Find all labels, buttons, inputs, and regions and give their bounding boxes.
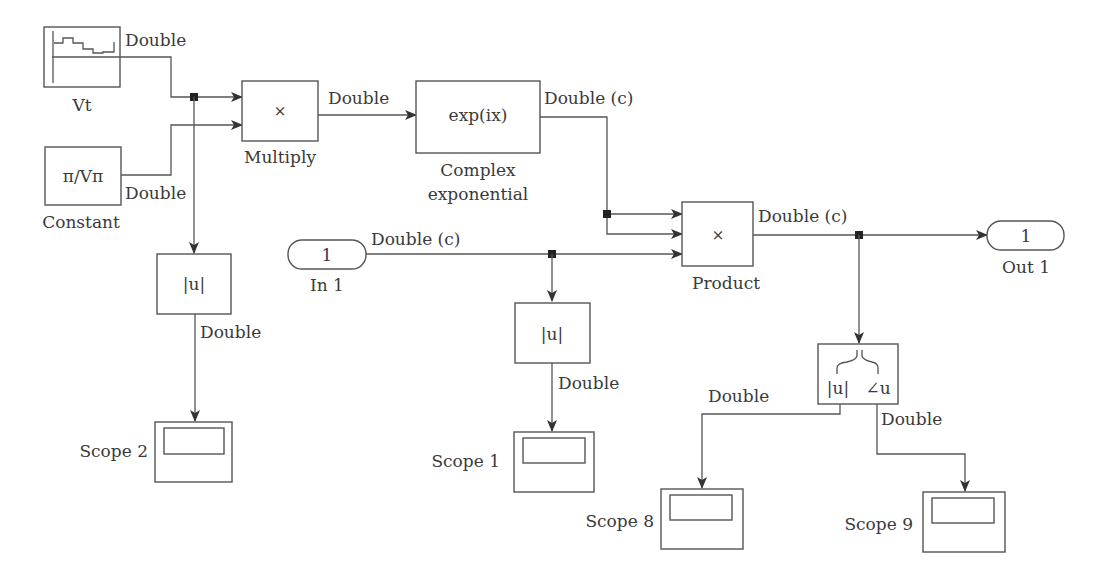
- abs-mid-expr: |u|: [541, 324, 563, 344]
- constant-block[interactable]: π/Vπ: [45, 147, 121, 205]
- product-label: Product: [692, 273, 760, 293]
- wire-exp-to-product-2: [607, 214, 682, 234]
- out1-port-number: 1: [1021, 226, 1032, 246]
- product-signal-label: Double (c): [758, 206, 847, 226]
- scope1-block[interactable]: [514, 432, 594, 492]
- abs-left-block[interactable]: |u|: [157, 254, 231, 314]
- complex-exp-expr: exp(ix): [449, 105, 508, 125]
- out1-port[interactable]: 1: [987, 221, 1064, 250]
- exp-signal-label: Double (c): [544, 88, 633, 108]
- complex-exp-block[interactable]: exp(ix): [416, 81, 540, 153]
- scope-screen-icon: [164, 428, 224, 454]
- wire-exp-to-product-1: [540, 117, 682, 214]
- scope1-label: Scope 1: [431, 451, 500, 471]
- abs-mid-signal-label: Double: [558, 373, 619, 393]
- product-symbol: ×: [712, 226, 725, 244]
- product-block[interactable]: ×: [682, 202, 753, 266]
- block-diagram: Vt Double π/Vπ Constant Double × Multipl…: [0, 0, 1113, 576]
- scope9-block[interactable]: [923, 492, 1005, 552]
- out1-label: Out 1: [1002, 257, 1050, 277]
- scope8-block[interactable]: [661, 489, 743, 549]
- constant-value: π/Vπ: [63, 166, 103, 186]
- constant-signal-label: Double: [125, 183, 186, 203]
- constant-label: Constant: [42, 212, 120, 232]
- vt-label: Vt: [71, 95, 91, 115]
- in1-signal-label: Double (c): [371, 229, 460, 249]
- scope-screen-icon: [670, 495, 732, 520]
- multiply-symbol: ×: [274, 102, 287, 120]
- complex-to-mag-angle-block[interactable]: |u| ∠u: [818, 344, 898, 404]
- multiply-signal-label: Double: [328, 88, 389, 108]
- complex-exp-label-line2: exponential: [428, 184, 529, 204]
- abs-mid-block[interactable]: |u|: [515, 303, 590, 363]
- in1-label: In 1: [310, 275, 344, 295]
- angle-output-label: ∠u: [865, 378, 890, 398]
- scope-screen-icon: [523, 438, 585, 463]
- vt-signal-label: Double: [125, 30, 186, 50]
- scope2-block[interactable]: [155, 422, 232, 482]
- junction-exp: [603, 210, 611, 218]
- in1-port[interactable]: 1: [288, 240, 366, 269]
- mag-signal-label: Double: [708, 386, 769, 406]
- multiply-label: Multiply: [244, 147, 316, 167]
- scope8-label: Scope 8: [585, 511, 654, 531]
- scope-screen-icon: [932, 498, 994, 523]
- wire-constant-to-multiply: [121, 125, 242, 175]
- abs-left-signal-label: Double: [200, 322, 261, 342]
- wire-mag-to-scope8: [702, 404, 840, 488]
- abs-left-expr: |u|: [183, 274, 205, 294]
- in1-port-number: 1: [322, 245, 333, 265]
- complex-exp-label-line1: Complex: [440, 160, 516, 180]
- scope2-label: Scope 2: [79, 441, 148, 461]
- angle-signal-label: Double: [881, 409, 942, 429]
- mag-output-label: |u|: [827, 378, 849, 398]
- multiply-block[interactable]: ×: [242, 81, 318, 141]
- scope9-label: Scope 9: [844, 514, 913, 534]
